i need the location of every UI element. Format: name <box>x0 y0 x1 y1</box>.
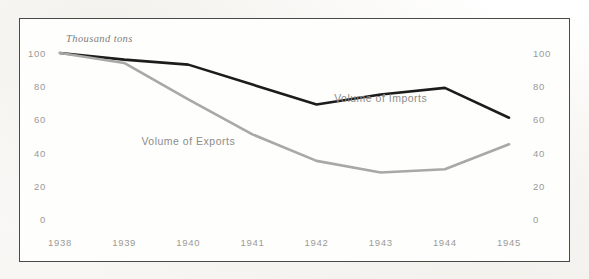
series-line-imports <box>60 53 509 118</box>
y-tick-right-100: 100 <box>533 48 551 59</box>
y-tick-left-0: 0 <box>20 214 46 225</box>
x-tick-1940: 1940 <box>176 237 200 248</box>
x-tick-1944: 1944 <box>433 237 457 248</box>
y-tick-left-100: 100 <box>20 48 46 59</box>
y-tick-right-60: 60 <box>533 114 545 125</box>
series-layer <box>60 53 509 173</box>
x-tick-1942: 1942 <box>305 237 329 248</box>
plot-area: 100806040200 100806040200 19381939194019… <box>20 19 571 263</box>
x-tick-1938: 1938 <box>48 237 72 248</box>
chart-figure: 100806040200 100806040200 19381939194019… <box>0 0 589 279</box>
x-tick-1945: 1945 <box>497 237 521 248</box>
chart-plot-svg <box>20 19 571 263</box>
y-tick-right-20: 20 <box>533 180 545 191</box>
series-label-exports: Volume of Exports <box>141 135 235 147</box>
y-tick-right-40: 40 <box>533 147 545 158</box>
y-tick-left-20: 20 <box>20 180 46 191</box>
axis-unit-caption: Thousand tons <box>66 33 133 44</box>
x-tick-1939: 1939 <box>112 237 136 248</box>
series-label-imports: Volume of Imports <box>334 92 427 104</box>
y-tick-left-60: 60 <box>20 114 46 125</box>
chart-frame: 100806040200 100806040200 19381939194019… <box>19 18 570 262</box>
x-tick-1943: 1943 <box>369 237 393 248</box>
series-line-exports <box>60 53 509 173</box>
x-tick-1941: 1941 <box>240 237 264 248</box>
y-tick-right-80: 80 <box>533 81 545 92</box>
y-tick-left-80: 80 <box>20 81 46 92</box>
y-tick-right-0: 0 <box>533 214 539 225</box>
y-tick-left-40: 40 <box>20 147 46 158</box>
